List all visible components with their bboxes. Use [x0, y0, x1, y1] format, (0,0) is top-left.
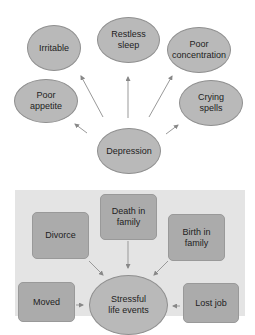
symptom-crying-spells: Crying spells	[179, 80, 243, 126]
cause-label: Moved	[33, 297, 60, 308]
cause-label: Death in family	[112, 206, 146, 228]
arrow-from-divorce	[89, 261, 103, 275]
symptom-poor-appetite: Poor appetite	[14, 79, 78, 123]
arrow-from-birth	[154, 261, 168, 275]
arrow-to-poor-concentration	[149, 76, 172, 117]
arrow-to-poor-appetite	[75, 124, 87, 133]
symptom-label: Poor concentration	[172, 39, 226, 61]
center-label: Depression	[106, 146, 152, 157]
cause-label: Divorce	[45, 230, 76, 241]
symptom-irritable: Irritable	[27, 25, 81, 71]
cause-birth-in-family: Birth in family	[168, 214, 225, 261]
symptom-restless-sleep: Restless sleep	[97, 17, 160, 63]
cause-death-in-family: Death in family	[100, 194, 157, 240]
center-depression: Depression	[97, 128, 161, 174]
arrow-to-irritable	[81, 76, 103, 117]
symptom-label: Restless sleep	[111, 29, 146, 51]
center-label: Stressful life events	[108, 294, 149, 316]
cause-label: Birth in family	[182, 227, 210, 249]
symptom-label: Irritable	[39, 43, 69, 54]
symptom-label: Poor appetite	[30, 90, 62, 112]
center-stressful-life-events: Stressful life events	[89, 275, 168, 335]
symptom-poor-concentration: Poor concentration	[167, 27, 231, 73]
arrow-to-crying-spells	[166, 125, 178, 134]
cause-moved: Moved	[18, 282, 75, 322]
cause-divorce: Divorce	[32, 212, 89, 259]
symptom-label: Crying spells	[198, 92, 224, 114]
cause-label: Lost job	[195, 298, 227, 309]
cause-lost-job: Lost job	[183, 283, 239, 323]
